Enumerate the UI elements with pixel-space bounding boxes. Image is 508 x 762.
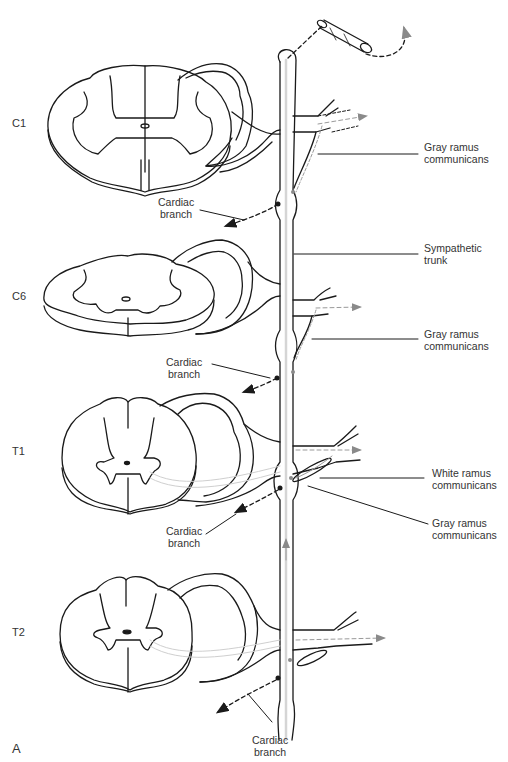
level-label-c1: C1 — [12, 117, 26, 129]
spinal-ganglion-t1 — [150, 394, 280, 507]
level-label-t2: T2 — [12, 626, 25, 638]
label-gray-ramus-communicans-2: Gray ramus communicans — [424, 328, 489, 352]
spinal-cord-c1 — [48, 66, 231, 197]
label-cardiac-branch-1: Cardiac branch — [158, 196, 194, 220]
label-cardiac-branch-2: Cardiac branch — [166, 356, 202, 380]
label-cardiac-branch-3: Cardiac branch — [166, 525, 202, 549]
level-label-t1: T1 — [12, 445, 25, 457]
spinal-cord-t2 — [60, 577, 192, 692]
label-white-ramus-communicans: White ramus communicans — [432, 467, 497, 491]
level-label-c6: C6 — [12, 290, 26, 302]
panel-label: A — [12, 743, 21, 755]
sympathetic-trunk — [274, 50, 298, 740]
label-sympathetic-trunk: Sympathetic trunk — [424, 242, 482, 266]
leader-cardiac-3 — [206, 514, 236, 534]
leader-gray-ramus-3 — [308, 486, 428, 524]
leader-cardiac-4 — [248, 694, 272, 722]
spinal-nerve-t1 — [236, 426, 360, 512]
spinal-cord-t1 — [62, 398, 196, 514]
label-gray-ramus-communicans-1: Gray ramus communicans — [424, 141, 489, 165]
leader-cardiac-2 — [212, 364, 270, 378]
spinal-cord-c6 — [44, 254, 214, 336]
spinal-nerve-t2 — [218, 540, 384, 712]
label-cardiac-branch-4: Cardiac branch — [252, 734, 288, 758]
leader-cardiac-1 — [200, 210, 244, 220]
label-gray-ramus-communicans-3: Gray ramus communicans — [432, 517, 497, 541]
sympathetic-trunk-diagram — [0, 0, 508, 762]
blood-vessel — [288, 19, 405, 58]
